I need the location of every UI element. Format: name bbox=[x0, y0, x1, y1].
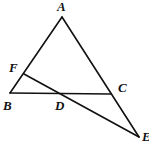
label-d: D bbox=[54, 98, 65, 113]
segment-ab bbox=[10, 17, 62, 93]
label-f: F bbox=[8, 60, 18, 75]
label-b: B bbox=[2, 98, 12, 113]
geometry-diagram: A F B D C E bbox=[0, 0, 149, 142]
label-a: A bbox=[56, 0, 66, 14]
label-e: E bbox=[141, 129, 149, 142]
segment-ae bbox=[62, 17, 139, 137]
label-c: C bbox=[118, 80, 127, 95]
